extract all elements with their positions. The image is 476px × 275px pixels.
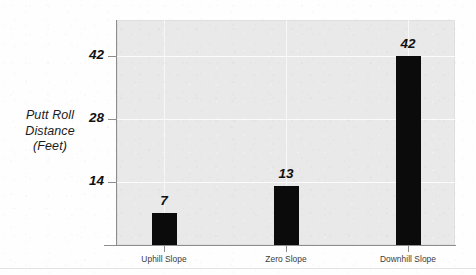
x-tick-mark-uphill-slope <box>164 246 165 252</box>
x-tick-mark-downhill-slope <box>408 246 409 252</box>
bar-value-downhill-slope: 42 <box>378 36 438 51</box>
y-tick-label-42: 42 <box>60 47 104 62</box>
y-axis-title-line-3: (Feet) <box>2 139 98 155</box>
x-tick-label-uphill-slope: Uphill Slope <box>104 254 224 264</box>
y-axis-title-line-1: Putt Roll <box>2 108 98 124</box>
y-axis-title-line-2: Distance <box>2 124 98 140</box>
bar-value-zero-slope: 13 <box>256 166 316 181</box>
y-axis-line <box>116 20 117 246</box>
bar-downhill-slope[interactable] <box>396 56 421 245</box>
gridline-vertical-uphill <box>164 20 165 245</box>
y-tick-mark-42 <box>108 56 117 57</box>
bar-value-uphill-slope: 7 <box>134 193 194 208</box>
x-tick-label-zero-slope: Zero Slope <box>226 254 346 264</box>
bar-uphill-slope[interactable] <box>152 213 177 245</box>
y-axis-title: Putt Roll Distance (Feet) <box>2 108 98 155</box>
bar-chart-figure: 42 28 14 Putt Roll Distance (Feet) 7 13 … <box>0 0 476 275</box>
x-tick-mark-zero-slope <box>286 246 287 252</box>
y-tick-mark-14 <box>108 182 117 183</box>
x-tick-label-downhill-slope: Downhill Slope <box>348 254 468 264</box>
page-rule <box>0 268 476 269</box>
x-axis-line <box>104 245 456 246</box>
bar-zero-slope[interactable] <box>274 186 299 245</box>
y-tick-mark-28 <box>108 119 117 120</box>
y-tick-label-14: 14 <box>60 173 104 188</box>
